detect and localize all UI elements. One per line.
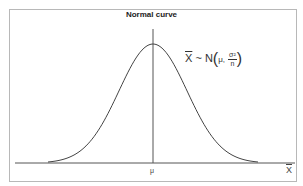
formula-n: N — [205, 52, 213, 64]
formula-xbar: X — [185, 52, 192, 64]
formula-mean: μ, — [218, 55, 225, 64]
distribution-formula: X ~ N(μ, σ² n ) — [185, 50, 242, 68]
formula-denominator: n — [228, 60, 237, 68]
formula-fraction: σ² n — [228, 51, 237, 68]
formula-numerator: σ² — [228, 51, 237, 60]
x-tick-mu: μ — [150, 167, 154, 174]
formula-tilde: ~ — [195, 52, 201, 64]
chart-plot — [0, 0, 303, 186]
x-axis-label: X — [286, 165, 292, 175]
formula-paren-close: ) — [237, 50, 242, 67]
